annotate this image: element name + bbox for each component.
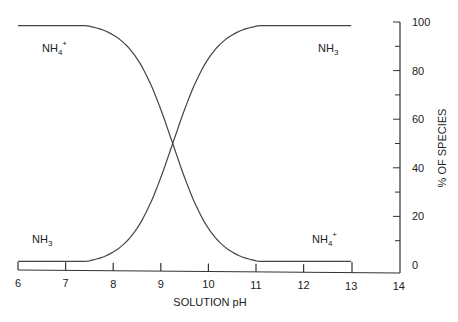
x-tick-label: 8 — [110, 278, 116, 290]
curve-nh3 — [18, 26, 351, 262]
y-tick-label: 20 — [412, 210, 424, 222]
y-ticks: 020406080100 — [393, 16, 430, 271]
y-tick-label: 0 — [412, 259, 418, 271]
x-tick-label: 13 — [345, 280, 357, 292]
x-tick-label: 12 — [297, 279, 309, 291]
species-label: NH4+ — [312, 230, 337, 248]
y-tick-label: 60 — [412, 113, 424, 125]
curve-nh4 — [18, 26, 351, 262]
y-tick-label: 100 — [412, 16, 430, 28]
y-tick-label: 80 — [412, 65, 424, 77]
x-tick-label: 10 — [202, 278, 214, 290]
species-distribution-chart: 67891011121314 020406080100 NH4+NH3NH3NH… — [0, 0, 458, 322]
x-tick-label: 6 — [15, 277, 21, 289]
x-tick-label: 14 — [393, 280, 405, 292]
x-tick-label: 11 — [250, 279, 261, 291]
y-tick-label: 40 — [412, 162, 424, 174]
species-label: NH3 — [318, 42, 339, 57]
x-tick-label: 9 — [158, 278, 164, 290]
x-tick-label: 7 — [63, 277, 69, 289]
annotations: NH4+NH3NH3NH4+ — [32, 39, 339, 248]
x-axis-line — [18, 270, 400, 273]
y-axis-label: % OF SPECIES — [436, 109, 448, 188]
species-label: NH3 — [32, 233, 53, 248]
species-label: NH4+ — [42, 39, 67, 57]
x-axis-label: SOLUTION pH — [173, 296, 246, 308]
curves — [18, 26, 351, 262]
axes — [18, 22, 400, 273]
x-ticks: 67891011121314 — [15, 262, 405, 292]
